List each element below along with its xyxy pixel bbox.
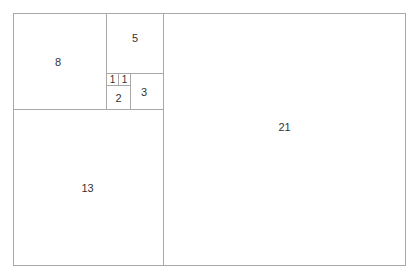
square-label: 8 xyxy=(55,56,61,68)
square-3: 3 xyxy=(130,73,164,110)
square-8: 8 xyxy=(13,13,107,110)
square-label: 1 xyxy=(122,74,128,85)
square-21: 21 xyxy=(163,13,406,266)
square-label: 13 xyxy=(81,182,93,194)
square-13: 13 xyxy=(13,109,164,266)
square-label: 2 xyxy=(115,92,121,104)
square-5: 5 xyxy=(106,13,164,74)
square-label: 5 xyxy=(132,32,138,44)
square-label: 1 xyxy=(110,74,116,85)
square-2: 2 xyxy=(106,85,131,110)
square-label: 3 xyxy=(141,86,147,98)
square-label: 21 xyxy=(278,121,290,133)
